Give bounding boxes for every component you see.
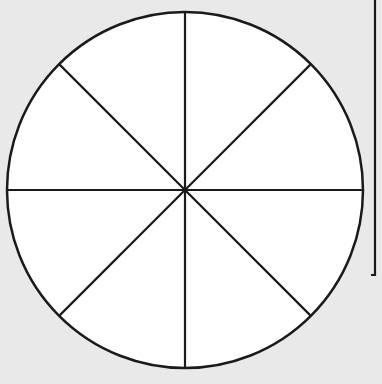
fraction-circle-diagram: [0, 0, 382, 384]
slice-dividers: [7, 12, 363, 368]
partial-box-edge: [371, 0, 375, 275]
diagram-canvas: [0, 0, 382, 384]
